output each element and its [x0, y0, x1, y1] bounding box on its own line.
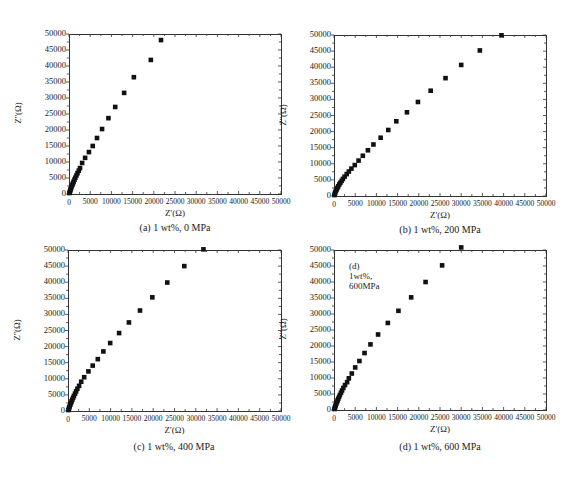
y-axis-label: Z''(Ω): [278, 309, 288, 349]
panel-caption: (d) 1 wt%, 600 MPa: [334, 441, 546, 452]
data-point: [423, 280, 428, 285]
data-point: [459, 245, 464, 250]
data-point: [357, 359, 362, 364]
y-tick-label: 25000: [285, 325, 331, 334]
y-tick-label: 10000: [285, 373, 331, 382]
y-tick-label: 50000: [285, 245, 331, 254]
data-point: [368, 342, 373, 347]
y-tick-label: 30000: [285, 309, 331, 318]
y-tick-label: 0: [285, 405, 331, 414]
data-point: [376, 332, 381, 337]
data-point: [350, 371, 355, 376]
y-tick-label: 40000: [285, 277, 331, 286]
data-point: [440, 263, 445, 268]
data-point: [409, 295, 414, 300]
x-axis-label: Z'(Ω): [410, 424, 470, 434]
y-tick-label: 15000: [285, 357, 331, 366]
data-point: [396, 309, 401, 314]
y-tick-label: 5000: [285, 389, 331, 398]
x-tick-label: 50000: [533, 414, 559, 422]
y-tick-label: 35000: [285, 293, 331, 302]
y-tick-label: 45000: [285, 261, 331, 270]
data-point: [347, 376, 352, 381]
data-point: [353, 365, 358, 370]
data-point: [362, 351, 367, 356]
data-point: [386, 321, 391, 326]
inset-annotation: (d) 1wt%, 600MPa: [349, 261, 380, 291]
y-tick-label: 20000: [285, 341, 331, 350]
